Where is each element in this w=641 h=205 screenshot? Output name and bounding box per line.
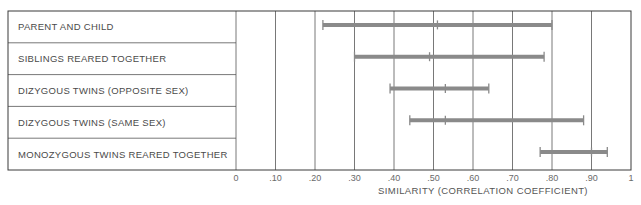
category-label: MONOZYGOUS TWINS REARED TOGETHER <box>18 149 228 160</box>
category-label-column: PARENT AND CHILDSIBLINGS REARED TOGETHER… <box>8 11 236 170</box>
x-tick-label: .60 <box>467 173 480 183</box>
range-bar-5 <box>540 147 607 157</box>
x-tick-labels: 0.10.20.30.40.50.60.70.80.901 <box>233 173 633 183</box>
range-bar-4 <box>410 115 584 125</box>
correlation-range-chart: PARENT AND CHILDSIBLINGS REARED TOGETHER… <box>0 0 641 205</box>
x-tick-label: .50 <box>427 173 440 183</box>
x-tick-label: .70 <box>506 173 519 183</box>
range-bar-2 <box>355 52 545 62</box>
x-tick-label: .90 <box>585 173 598 183</box>
x-tick-label: .10 <box>269 173 282 183</box>
category-label: SIBLINGS REARED TOGETHER <box>18 53 166 64</box>
x-tick-label: .40 <box>388 173 401 183</box>
x-tick-label: .80 <box>546 173 559 183</box>
range-bar-3 <box>390 84 489 94</box>
category-label: DIZYGOUS TWINS (SAME SEX) <box>18 117 166 128</box>
category-label: PARENT AND CHILD <box>18 21 114 32</box>
range-bar-1 <box>323 20 552 30</box>
x-tick-label: .20 <box>309 173 322 183</box>
category-label: DIZYGOUS TWINS (OPPOSITE SEX) <box>18 85 189 96</box>
x-tick-label: 1 <box>628 173 633 183</box>
range-bars <box>323 20 607 157</box>
x-tick-label: .30 <box>348 173 361 183</box>
x-tick-label: 0 <box>233 173 238 183</box>
x-axis-title: SIMILARITY (CORRELATION COEFFICIENT) <box>378 185 588 196</box>
